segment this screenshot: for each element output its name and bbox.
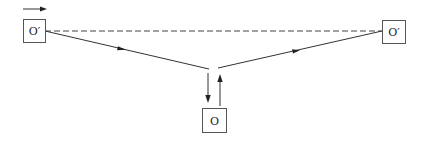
node-label: O [210,115,219,128]
node-left-o-prime: O′ [24,20,46,43]
ray-left-to-apex [45,31,209,69]
arrowhead-icon [217,74,222,82]
node-label: O′ [388,26,400,39]
arrowhead-icon [205,95,210,103]
node-label: O′ [29,25,41,38]
ray-o-up-to-apex [217,74,222,106]
velocity-arrow-icon [23,7,47,12]
ray-apex-down-to-o [205,73,210,103]
diagram-canvas: O′ O′ O [0,0,422,142]
node-bottom-o: O [203,109,227,133]
arrowhead-icon [117,46,126,50]
node-right-o-prime: O′ [383,21,406,44]
ray-apex-to-right [218,31,382,68]
